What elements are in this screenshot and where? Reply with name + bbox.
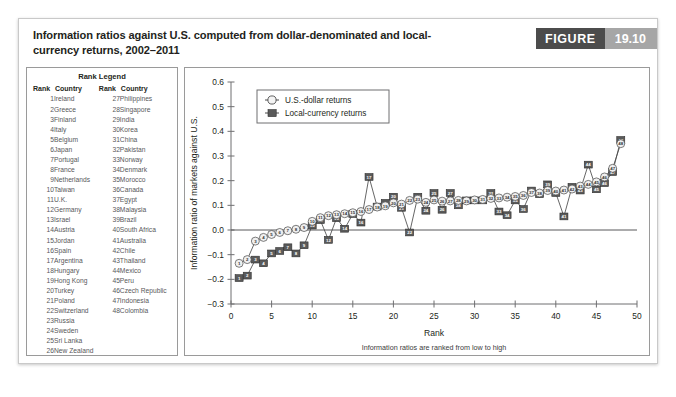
table-row: 13Israel39Brazil (32, 215, 172, 225)
country-cell: South Africa (120, 225, 172, 235)
table-row: 5Belgium31China (32, 134, 172, 144)
rank-cell: 3 (32, 114, 54, 124)
country-cell: Sri Lanka (54, 336, 98, 346)
local-currency-marker-label: 14 (342, 226, 347, 231)
rank-cell: 47 (98, 296, 120, 306)
country-cell: Jordan (54, 235, 98, 245)
country-cell: Korea (120, 124, 172, 134)
x-tick-label: 50 (632, 311, 642, 321)
rank-cell: 12 (32, 205, 54, 215)
usd-returns-marker-label: 45 (594, 180, 599, 185)
rank-cell: 32 (98, 144, 120, 154)
y-tick-label: 0.3 (212, 151, 224, 161)
country-cell: Netherlands (54, 175, 98, 185)
rank-cell: 26 (32, 346, 54, 356)
usd-returns-marker-label: 11 (318, 215, 323, 220)
legend-swatch-local-icon (268, 110, 276, 117)
local-currency-marker-label: 17 (367, 175, 372, 180)
x-tick-label: 25 (429, 311, 439, 321)
usd-returns-marker-label: 41 (561, 188, 566, 193)
country-cell: Poland (54, 296, 98, 306)
rank-cell: 41 (98, 235, 120, 245)
rank-cell: 33 (98, 154, 120, 164)
rank-cell: 35 (98, 175, 120, 185)
country-cell: Spain (54, 245, 98, 255)
local-currency-marker-label: 45 (594, 187, 599, 192)
rank-cell: 9 (32, 175, 54, 185)
local-currency-marker-label: 44 (586, 162, 591, 167)
rank-cell: 21 (32, 296, 54, 306)
table-row: 1Ireland27Philippines (32, 94, 172, 104)
country-cell: France (54, 165, 98, 175)
usd-returns-marker-label: 40 (553, 189, 558, 194)
x-tick-label: 30 (470, 311, 480, 321)
usd-returns-marker-label: 39 (545, 188, 550, 193)
rank-cell (98, 316, 120, 326)
country-cell: India (120, 114, 172, 124)
country-cell: Israel (54, 215, 98, 225)
usd-returns-marker-label: 31 (480, 197, 485, 202)
y-tick-label: 0.4 (212, 126, 224, 136)
country-cell (120, 336, 172, 346)
rank-legend-title: Rank Legend (32, 72, 172, 81)
country-cell: Indonesia (120, 296, 172, 306)
usd-returns-marker-label: 29 (464, 199, 469, 204)
column-header-country-left: Country (54, 84, 98, 94)
y-tick-label: −0.1 (207, 250, 224, 260)
x-tick-label: 10 (308, 311, 318, 321)
figure-badge: FIGURE 19.10 (536, 28, 657, 49)
rank-cell (98, 346, 120, 356)
country-cell: Singapore (120, 104, 172, 114)
usd-returns-marker-label: 22 (407, 198, 412, 203)
rank-cell: 37 (98, 195, 120, 205)
chart-subcaption: Information ratios are ranked from low t… (362, 343, 507, 352)
table-row: 26New Zealand (32, 346, 172, 356)
country-cell: Portugal (54, 154, 98, 164)
usd-returns-marker-label: 47 (610, 166, 615, 171)
table-row: 24Sweden (32, 326, 172, 336)
usd-returns-marker-label: 21 (399, 202, 404, 207)
country-cell: Ireland (54, 94, 98, 104)
local-currency-marker-label: 26 (440, 207, 445, 212)
x-tick-label: 5 (269, 311, 274, 321)
column-header-country-right: Country (120, 84, 172, 94)
country-cell: Peru (120, 275, 172, 285)
y-axis-title: Information ratio of markets against U.S… (189, 116, 199, 270)
x-axis-title: Rank (424, 328, 445, 338)
country-cell: Japan (54, 144, 98, 154)
usd-returns-marker-label: 19 (383, 204, 388, 209)
country-cell (120, 346, 172, 356)
table-row: 4Italy30Korea (32, 124, 172, 134)
table-row: 8France34Denmark (32, 165, 172, 175)
local-currency-marker-label: 41 (561, 214, 566, 219)
rank-cell: 16 (32, 245, 54, 255)
country-cell: Switzerland (54, 306, 98, 316)
country-cell: Philippines (120, 94, 172, 104)
local-currency-marker-label: 24 (423, 208, 428, 213)
usd-returns-marker-label: 30 (472, 198, 477, 203)
local-currency-marker-label: 22 (407, 230, 412, 235)
rank-cell: 10 (32, 185, 54, 195)
chart-legend-box (257, 90, 389, 123)
country-cell: Austria (54, 225, 98, 235)
local-currency-marker-label: 27 (448, 191, 453, 196)
rank-cell: 48 (98, 306, 120, 316)
rank-cell: 45 (98, 275, 120, 285)
usd-returns-marker-label: 43 (578, 184, 583, 189)
figure-header: Information ratios against U.S. computed… (19, 19, 657, 63)
rank-cell: 42 (98, 245, 120, 255)
table-row: 19Hong Kong45Peru (32, 275, 172, 285)
usd-returns-marker-label: 36 (521, 193, 526, 198)
rank-cell: 22 (32, 306, 54, 316)
table-row: 18Hungary44Mexico (32, 265, 172, 275)
usd-returns-marker-label: 17 (367, 207, 372, 212)
y-tick-label: 0.5 (212, 102, 224, 112)
country-cell (120, 316, 172, 326)
rank-cell: 2 (32, 104, 54, 114)
column-header-rank-left: Rank (32, 84, 54, 94)
country-cell: U.K. (54, 195, 98, 205)
table-row: 12Germany38Malaysia (32, 205, 172, 215)
rank-cell: 40 (98, 225, 120, 235)
page-title: Information ratios against U.S. computed… (33, 28, 473, 58)
y-tick-label: −0.2 (207, 274, 224, 284)
